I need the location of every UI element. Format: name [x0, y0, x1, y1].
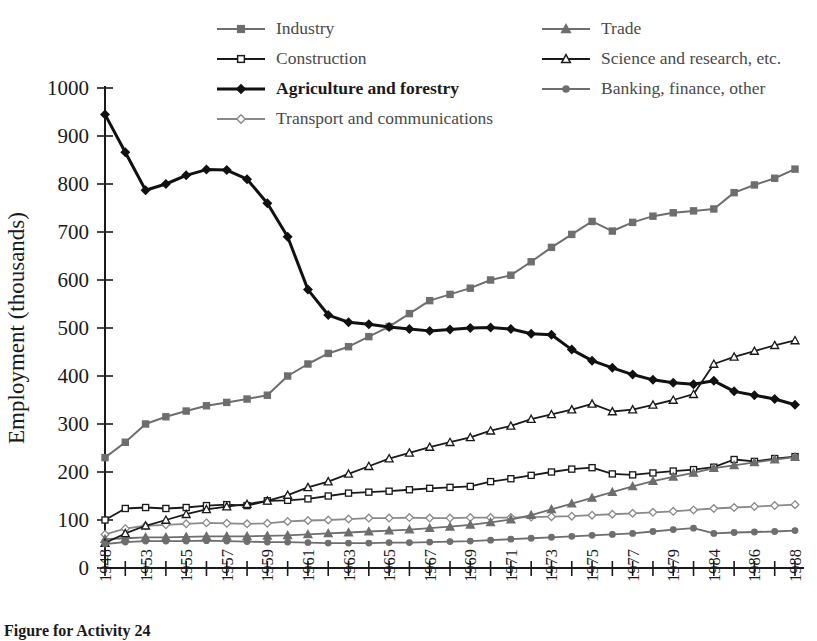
data-point — [406, 514, 414, 522]
data-point — [629, 371, 637, 379]
x-tick-label: 1971 — [502, 549, 521, 582]
data-point — [610, 532, 616, 538]
data-point — [304, 517, 312, 525]
data-point — [346, 540, 352, 546]
data-point — [305, 361, 311, 367]
series-agriculture — [101, 110, 799, 408]
x-tick-label: 1955 — [177, 549, 196, 582]
data-point — [183, 538, 189, 544]
x-tick-label: 1988 — [786, 549, 805, 582]
data-point — [791, 501, 799, 509]
data-point — [669, 379, 677, 387]
data-point — [467, 483, 473, 489]
data-point — [792, 528, 798, 534]
x-tick-label: 1948 — [96, 549, 115, 582]
data-point — [426, 514, 434, 522]
data-point — [691, 525, 697, 531]
data-point — [528, 259, 534, 265]
data-point — [345, 515, 353, 523]
data-point — [752, 529, 758, 535]
x-tick-label: 1965 — [380, 549, 399, 582]
data-point — [528, 472, 534, 478]
x-tick-label: 1977 — [624, 549, 643, 582]
data-point — [305, 540, 311, 546]
data-point — [447, 291, 453, 297]
y-tick-label: 700 — [58, 220, 90, 244]
series-industry — [102, 166, 798, 461]
data-point — [608, 364, 616, 372]
data-point — [325, 350, 331, 356]
y-tick-label: 0 — [79, 556, 90, 580]
data-point — [143, 421, 149, 427]
data-point — [386, 540, 392, 546]
data-point — [366, 540, 372, 546]
y-tick-label: 200 — [58, 460, 90, 484]
data-point — [325, 493, 331, 499]
y-tick-label: 1000 — [47, 76, 89, 100]
data-point — [426, 327, 434, 335]
data-point — [488, 479, 494, 485]
data-point — [264, 520, 272, 528]
data-point — [386, 488, 392, 494]
data-point — [548, 469, 554, 475]
data-point — [182, 520, 190, 528]
data-point — [183, 408, 189, 414]
data-point — [447, 539, 453, 545]
data-point — [224, 538, 230, 544]
data-point — [203, 519, 211, 527]
data-point — [792, 166, 798, 172]
data-point — [366, 489, 372, 495]
data-point — [711, 206, 717, 212]
data-point — [690, 380, 698, 388]
data-point — [588, 511, 596, 519]
y-tick-label: 600 — [58, 268, 90, 292]
data-point — [710, 505, 718, 513]
data-point — [243, 520, 251, 528]
data-point — [345, 490, 351, 496]
data-point — [609, 471, 615, 477]
data-point — [690, 506, 698, 514]
data-point — [285, 539, 291, 545]
x-tick-label: 1953 — [137, 549, 156, 582]
data-point — [163, 505, 169, 511]
data-point — [365, 514, 373, 522]
data-point — [549, 534, 555, 540]
data-point — [163, 538, 169, 544]
data-point — [285, 373, 291, 379]
x-tick-label: 1984 — [705, 549, 724, 582]
data-point — [711, 531, 717, 537]
data-point — [102, 541, 108, 547]
data-point — [548, 513, 556, 521]
data-point — [771, 395, 779, 403]
data-point — [791, 401, 799, 409]
data-point — [345, 318, 353, 326]
data-point — [508, 476, 514, 482]
x-tick-label: 1959 — [258, 549, 277, 582]
x-tick-label: 1969 — [461, 549, 480, 582]
data-point — [568, 512, 576, 520]
x-tick-label: 1961 — [299, 549, 318, 582]
data-point — [223, 520, 231, 528]
data-point — [102, 455, 108, 461]
data-point — [630, 472, 636, 478]
data-point — [204, 538, 210, 544]
data-point — [569, 466, 575, 472]
data-point — [203, 403, 209, 409]
data-point — [143, 504, 149, 510]
data-point — [202, 166, 210, 174]
data-point — [650, 470, 656, 476]
data-point — [324, 516, 332, 524]
data-point — [650, 213, 656, 219]
figure-caption: Figure for Activity 24 — [4, 622, 151, 640]
data-point — [122, 505, 128, 511]
data-point — [427, 485, 433, 491]
data-point — [629, 509, 637, 517]
data-point — [609, 510, 617, 518]
data-point — [102, 517, 108, 523]
x-tick-label: 1979 — [664, 549, 683, 582]
data-point — [630, 531, 636, 537]
data-point — [366, 334, 372, 340]
data-point — [265, 539, 271, 545]
data-point — [630, 219, 636, 225]
data-point — [569, 231, 575, 237]
